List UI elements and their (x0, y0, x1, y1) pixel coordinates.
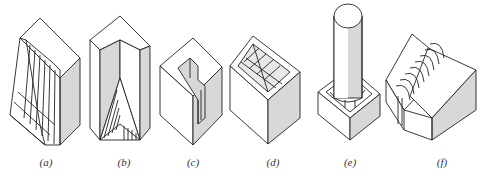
panel-f-drawing (386, 34, 476, 140)
panel-b-drawing (90, 16, 150, 140)
panel-e-drawing (318, 4, 380, 140)
panel-f-label: (f) (422, 156, 462, 168)
panel-d-label: (d) (253, 156, 293, 168)
panel-c-drawing (160, 38, 222, 145)
panel-e-label: (e) (330, 156, 370, 168)
panel-c-label: (c) (173, 156, 213, 168)
isometric-figure (0, 0, 484, 176)
panel-a-label: (a) (26, 156, 66, 168)
panel-a-drawing (10, 18, 80, 145)
panel-d-drawing (230, 36, 300, 144)
panel-b-label: (b) (104, 156, 144, 168)
